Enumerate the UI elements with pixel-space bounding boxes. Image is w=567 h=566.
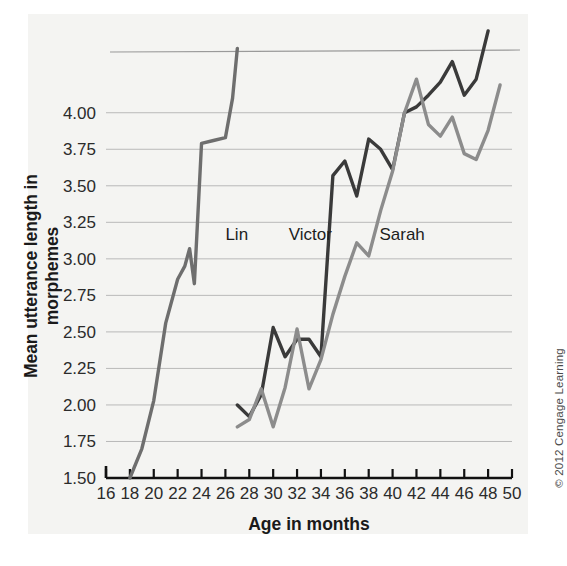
x-tick-label: 48 — [479, 484, 498, 503]
x-tick-label: 38 — [359, 484, 378, 503]
copyright-notice: © 2012 Cengage Learning — [553, 328, 565, 508]
y-tick-label: 1.75 — [63, 432, 96, 451]
figure-container: 1.501.752.002.252.502.753.003.253.503.75… — [0, 0, 567, 566]
y-tick-label: 3.00 — [63, 250, 96, 269]
x-tick-label: 18 — [120, 484, 139, 503]
x-tick-label: 34 — [311, 484, 330, 503]
x-tick-label: 40 — [383, 484, 402, 503]
x-tick-label: 26 — [216, 484, 235, 503]
y-tick-label: 2.50 — [63, 323, 96, 342]
x-tick-label: 36 — [335, 484, 354, 503]
x-tick-label: 28 — [240, 484, 259, 503]
axis-lines — [106, 466, 512, 478]
data-series — [130, 31, 500, 478]
x-tick-label: 30 — [264, 484, 283, 503]
series-label-lin: Lin — [225, 225, 248, 244]
mlu-line-chart: 1.501.752.002.252.502.753.003.253.503.75… — [0, 0, 567, 566]
x-tick-label: 20 — [144, 484, 163, 503]
series-line-victor — [237, 31, 488, 417]
y-tick-label: 3.25 — [63, 213, 96, 232]
y-tick-label: 2.25 — [63, 359, 96, 378]
y-tick-labels: 1.501.752.002.252.502.753.003.253.503.75… — [63, 104, 96, 488]
y-tick-label: 1.50 — [63, 469, 96, 488]
x-tick-label: 22 — [168, 484, 187, 503]
x-tick-label: 46 — [455, 484, 474, 503]
series-label-victor: Victor — [289, 225, 332, 244]
y-tick-label: 3.50 — [63, 177, 96, 196]
page-rule-line — [110, 50, 520, 52]
x-tick-label: 32 — [288, 484, 307, 503]
x-tick-label: 42 — [407, 484, 426, 503]
y-tick-label: 2.75 — [63, 286, 96, 305]
x-tick-labels: 161820222426283032343638404244464850 — [97, 484, 522, 503]
series-line-sarah — [237, 79, 500, 427]
y-tick-label: 4.00 — [63, 104, 96, 123]
grid-lines — [106, 113, 512, 442]
y-axis-title: Mean utterance length in morphemes — [21, 126, 63, 426]
y-tick-label: 3.75 — [63, 140, 96, 159]
y-tick-label: 2.00 — [63, 396, 96, 415]
x-tick-label: 16 — [97, 484, 116, 503]
x-tick-label: 50 — [503, 484, 522, 503]
series-label-sarah: Sarah — [379, 225, 424, 244]
x-tick-label: 44 — [431, 484, 450, 503]
page-rule — [110, 50, 520, 52]
x-tick-label: 24 — [192, 484, 211, 503]
x-axis-title: Age in months — [106, 514, 512, 535]
series-annotations: LinVictorSarah — [225, 225, 424, 244]
